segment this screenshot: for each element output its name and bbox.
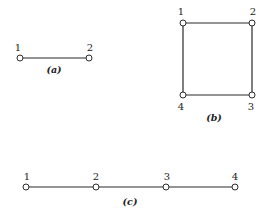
node-label: 1 (15, 42, 21, 53)
node-label: 3 (164, 171, 170, 182)
node-4 (180, 92, 186, 98)
figure-caption: (c) (123, 196, 138, 207)
node-3 (163, 184, 169, 190)
figure-a: 12(a) (15, 42, 93, 75)
node-2 (86, 55, 92, 61)
node-label: 2 (93, 171, 99, 182)
node-1 (17, 55, 23, 61)
node-1 (23, 184, 29, 190)
figure-c: 1234(c) (23, 171, 238, 207)
node-3 (249, 92, 255, 98)
node-4 (232, 184, 238, 190)
node-label: 2 (87, 42, 93, 53)
node-label: 1 (24, 171, 30, 182)
node-label: 2 (250, 6, 256, 17)
node-label: 4 (232, 171, 238, 182)
figure-caption: (b) (206, 112, 222, 123)
node-label: 1 (178, 6, 184, 17)
node-1 (180, 20, 186, 26)
node-2 (249, 20, 255, 26)
figure-b: 1234(b) (178, 6, 256, 123)
figure-caption: (a) (46, 64, 61, 75)
node-label: 3 (248, 101, 254, 112)
graph-diagram: 12(a)1234(b)1234(c) (0, 0, 267, 214)
node-label: 4 (178, 101, 184, 112)
node-2 (93, 184, 99, 190)
